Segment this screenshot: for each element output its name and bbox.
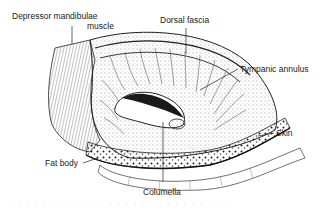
label-tympanic-annulus: Tympanic annulus xyxy=(240,65,309,74)
label-skin: Skin xyxy=(276,129,293,138)
ear-drawing xyxy=(0,0,327,211)
label-dorsal-fascia: Dorsal fascia xyxy=(160,16,209,25)
label-fat-body: Fat body xyxy=(45,159,78,168)
anatomical-figure: Depressor mandibulae muscle Dorsal fasci… xyxy=(0,0,327,211)
label-muscle: muscle xyxy=(87,22,114,31)
label-depressor-mandibulae: Depressor mandibulae xyxy=(12,12,98,21)
label-columella: Columella xyxy=(143,188,181,197)
caption-fragment: · · · · · · · · · · · · · · · · · · · · … xyxy=(10,201,320,209)
